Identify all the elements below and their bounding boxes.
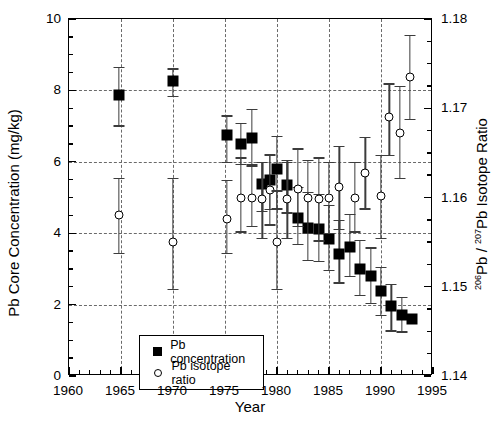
x-tick-label: 1990 bbox=[350, 383, 410, 398]
x-tick-minor bbox=[110, 370, 111, 374]
x-tick-label: 1965 bbox=[90, 383, 150, 398]
data-point-concentration bbox=[396, 309, 407, 320]
y-tick-label: 2 bbox=[20, 297, 61, 312]
y2-tick-minor bbox=[427, 41, 431, 42]
error-bar-cap bbox=[386, 284, 397, 285]
x-tick-minor bbox=[401, 370, 402, 374]
legend-item-isotope: Pb isotope ratio bbox=[147, 362, 256, 383]
x-tick-minor bbox=[297, 370, 298, 374]
y-tick-minor bbox=[69, 250, 73, 251]
data-point-concentration bbox=[365, 271, 376, 282]
x-tick-major bbox=[276, 367, 277, 374]
error-bar-cap bbox=[376, 238, 387, 239]
error-bar-cap bbox=[235, 123, 246, 124]
gridline-horizontal bbox=[69, 305, 431, 306]
data-point-isotope-ratio bbox=[114, 211, 123, 220]
y-tick-major bbox=[69, 233, 76, 234]
error-bar-cap bbox=[222, 180, 233, 181]
error-bar-cap bbox=[334, 146, 345, 147]
y-tick-minor bbox=[69, 143, 73, 144]
error-bar-cap bbox=[394, 178, 405, 179]
error-bar-cap bbox=[264, 224, 275, 225]
error-bar-cap bbox=[247, 226, 258, 227]
y2-tick-minor bbox=[427, 331, 431, 332]
x-tick-major bbox=[432, 367, 433, 374]
error-bar-cap bbox=[324, 233, 335, 234]
error-bar-cap bbox=[247, 164, 258, 165]
x-tick-minor bbox=[287, 370, 288, 374]
x-tick-label: 1995 bbox=[402, 383, 462, 398]
y2-tick-label: 1.18 bbox=[441, 11, 467, 26]
open-circle-icon bbox=[147, 369, 168, 377]
x-tick-major bbox=[120, 367, 121, 374]
error-bar-cap bbox=[384, 155, 395, 156]
error-bar-cap bbox=[303, 260, 314, 261]
error-bar-cap bbox=[405, 119, 416, 120]
y-tick-label: 0 bbox=[20, 368, 61, 383]
data-point-isotope-ratio bbox=[395, 129, 404, 138]
y2-tick-minor bbox=[427, 264, 431, 265]
error-bar-cap bbox=[272, 136, 283, 137]
y-tick-major bbox=[69, 18, 76, 19]
y2-tick-label: 1.16 bbox=[441, 190, 467, 205]
y-tick-minor bbox=[69, 268, 73, 269]
data-point-concentration bbox=[247, 132, 258, 143]
y2-tick-major bbox=[424, 18, 431, 19]
filled-square-icon bbox=[147, 347, 167, 356]
error-bar-cap bbox=[247, 109, 258, 110]
x-tick-minor bbox=[131, 370, 132, 374]
error-bar-cap bbox=[396, 331, 407, 332]
x-tick-minor bbox=[370, 370, 371, 374]
error-bar-cap bbox=[384, 83, 395, 84]
error-bar-cap bbox=[168, 68, 179, 69]
data-point-isotope-ratio bbox=[236, 193, 245, 202]
y2-tick-label: 1.14 bbox=[441, 368, 467, 383]
error-bar-cap bbox=[257, 238, 268, 239]
y2-tick-minor bbox=[427, 152, 431, 153]
data-point-isotope-ratio bbox=[169, 238, 178, 247]
error-bar-cap bbox=[365, 303, 376, 304]
error-bar-cap bbox=[303, 160, 314, 161]
x-tick-major bbox=[328, 367, 329, 374]
data-point-isotope-ratio bbox=[361, 168, 370, 177]
gridline-vertical bbox=[121, 19, 122, 374]
error-bar-cap bbox=[350, 162, 361, 163]
error-bar-cap bbox=[282, 162, 293, 163]
y2-tick-major bbox=[424, 286, 431, 287]
x-tick-label: 1985 bbox=[298, 383, 358, 398]
y-tick-label: 10 bbox=[20, 11, 61, 26]
x-tick-label: 1980 bbox=[246, 383, 306, 398]
x-tick-label: 1970 bbox=[142, 383, 202, 398]
y-tick-major bbox=[69, 90, 76, 91]
data-point-concentration bbox=[113, 89, 124, 100]
y-tick-minor bbox=[69, 179, 73, 180]
x-tick-minor bbox=[89, 370, 90, 374]
x-tick-minor bbox=[349, 370, 350, 374]
data-point-isotope-ratio bbox=[351, 193, 360, 202]
error-bar-cap bbox=[365, 247, 376, 248]
y2-tick-minor bbox=[427, 308, 431, 309]
data-point-concentration bbox=[344, 241, 355, 252]
gridline-horizontal bbox=[69, 233, 431, 234]
error-bar-cap bbox=[168, 289, 179, 290]
y2-tick-major bbox=[424, 375, 431, 376]
error-bar-cap bbox=[113, 125, 124, 126]
data-point-concentration bbox=[376, 286, 387, 297]
x-tick-minor bbox=[360, 370, 361, 374]
error-bar-cap bbox=[292, 226, 303, 227]
error-bar-cap bbox=[113, 253, 124, 254]
error-bar-cap bbox=[168, 96, 179, 97]
x-tick-label: 1960 bbox=[38, 383, 98, 398]
data-point-concentration bbox=[355, 263, 366, 274]
data-point-isotope-ratio bbox=[325, 193, 334, 202]
error-bar-cap bbox=[272, 289, 283, 290]
x-tick-major bbox=[380, 367, 381, 374]
error-bar-cap bbox=[396, 297, 407, 298]
y-axis-title-right-text: 206Pb / 207Pb Isotope Ratio bbox=[473, 119, 490, 291]
y-axis-title-left-text: Pb Core Concentration (mg/kg) bbox=[5, 109, 22, 317]
error-bar-cap bbox=[313, 261, 324, 262]
x-tick-label: 1975 bbox=[194, 383, 254, 398]
plot-area: Pb concentration Pb isotope ratio bbox=[68, 18, 432, 375]
data-point-isotope-ratio bbox=[385, 113, 394, 122]
error-bar-cap bbox=[235, 157, 246, 158]
